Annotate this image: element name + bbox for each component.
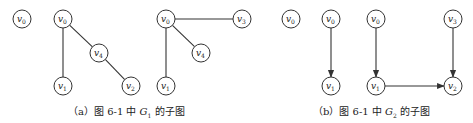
caption-a-graph: G bbox=[140, 106, 148, 117]
caption-a-prefix: （a）图 6-1 中 bbox=[68, 106, 140, 117]
node-b2-v2: v2 bbox=[444, 77, 462, 95]
node-a1-v2: v2 bbox=[122, 77, 140, 95]
node-b0-v0: v0 bbox=[282, 10, 300, 28]
node-a2-v0: v0 bbox=[157, 10, 175, 28]
nodes-layer: v0v0v4v1v2v0v3v4v1v0v0v1v0v3v1v2 bbox=[13, 10, 462, 95]
node-a2-v3: v3 bbox=[233, 10, 251, 28]
caption-a-suffix: 的子图 bbox=[151, 106, 184, 117]
node-b1-v1: v1 bbox=[322, 77, 340, 95]
caption-b-suffix: 的子图 bbox=[397, 106, 430, 117]
edge-a1-v0-v4 bbox=[70, 25, 93, 47]
caption-b-prefix: （b）图 6-1 中 bbox=[313, 106, 385, 117]
node-a0-v0: v0 bbox=[13, 10, 31, 28]
node-b2-v1: v1 bbox=[367, 77, 385, 95]
node-b2-v0: v0 bbox=[367, 10, 385, 28]
node-a1-v4: v4 bbox=[90, 44, 108, 62]
node-a1-v1: v1 bbox=[54, 77, 72, 95]
edge-a2-v0-v4 bbox=[172, 25, 194, 46]
caption-b-graph: G bbox=[385, 106, 393, 117]
node-b2-v3: v3 bbox=[444, 10, 462, 28]
edges-layer bbox=[63, 19, 453, 86]
node-a2-v1: v1 bbox=[157, 77, 175, 95]
node-a1-v0: v0 bbox=[54, 10, 72, 28]
caption-a: （a）图 6-1 中 G1 的子图 bbox=[68, 103, 185, 119]
caption-b: （b）图 6-1 中 G2 的子图 bbox=[313, 103, 430, 119]
edge-a1-v4-v2 bbox=[105, 59, 124, 79]
node-a2-v4: v4 bbox=[192, 44, 210, 62]
node-b1-v0: v0 bbox=[322, 10, 340, 28]
